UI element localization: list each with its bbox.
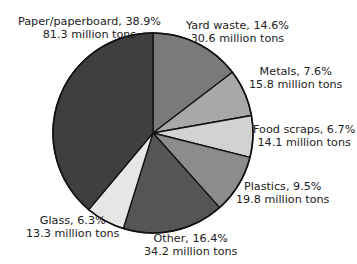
label-other-title: Other, 16.4%: [144, 232, 237, 245]
label-other: Other, 16.4% 34.2 million tons: [144, 232, 237, 258]
label-glass-amount: 13.3 million tons: [26, 227, 119, 240]
label-paper-title: Paper/paperboard, 38.9%: [18, 15, 161, 28]
label-glass: Glass, 6.3% 13.3 million tons: [26, 214, 119, 240]
label-plastics: Plastics, 9.5% 19.8 million tons: [236, 180, 329, 206]
label-glass-title: Glass, 6.3%: [26, 214, 119, 227]
label-food-scraps-amount: 14.1 million tons: [253, 136, 355, 149]
label-metals-title: Metals, 7.6%: [249, 65, 342, 78]
label-yard-waste: Yard waste, 14.6% 30.6 million tons: [186, 19, 289, 45]
label-other-amount: 34.2 million tons: [144, 245, 237, 258]
label-paper: Paper/paperboard, 38.9% 81.3 million ton…: [18, 15, 161, 41]
label-food-scraps: Food scraps, 6.7% 14.1 million tons: [253, 123, 355, 149]
label-plastics-title: Plastics, 9.5%: [236, 180, 329, 193]
label-paper-amount: 81.3 million tons: [18, 28, 161, 41]
label-plastics-amount: 19.8 million tons: [236, 193, 329, 206]
label-yard-waste-amount: 30.6 million tons: [186, 32, 289, 45]
label-food-scraps-title: Food scraps, 6.7%: [253, 123, 355, 136]
label-metals-amount: 15.8 million tons: [249, 78, 342, 91]
label-metals: Metals, 7.6% 15.8 million tons: [249, 65, 342, 91]
label-yard-waste-title: Yard waste, 14.6%: [186, 19, 289, 32]
